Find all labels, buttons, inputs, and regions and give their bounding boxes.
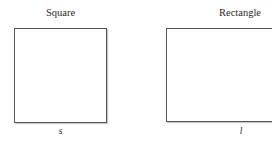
- rectangle-shape: [166, 28, 272, 122]
- rectangle-title: Rectangle: [192, 7, 272, 19]
- rectangle-length-label: l: [192, 126, 272, 137]
- square-side-label: s: [14, 126, 107, 137]
- square-title: Square: [14, 7, 107, 19]
- geometry-figure-canvas: Square s Rectangle l: [0, 0, 272, 145]
- square-shape: [14, 28, 107, 123]
